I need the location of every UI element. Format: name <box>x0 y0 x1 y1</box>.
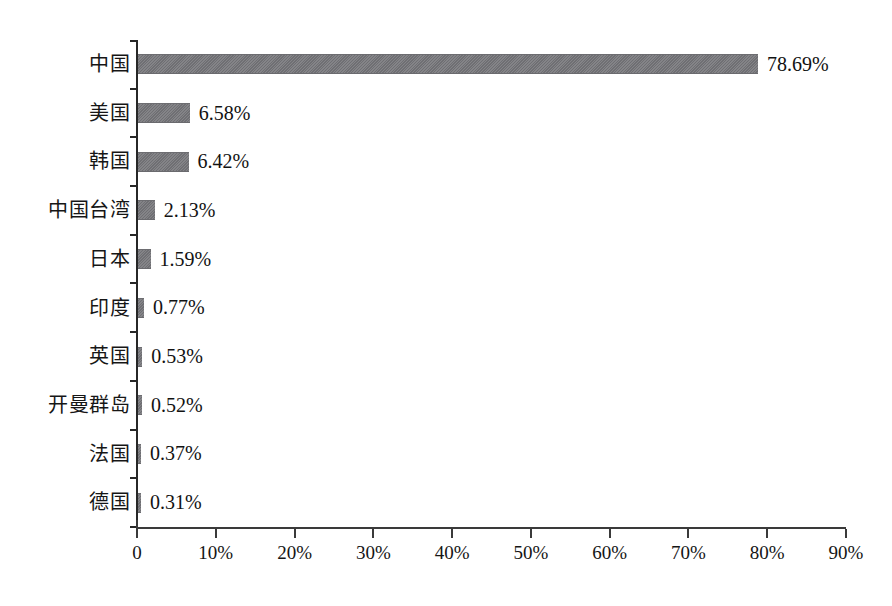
x-axis-tick <box>845 529 847 538</box>
x-axis-tick-label: 50% <box>513 542 548 564</box>
x-axis-tick <box>215 529 217 538</box>
x-axis-tick-label: 0 <box>132 542 142 564</box>
x-axis-tick-label: 90% <box>829 542 864 564</box>
x-axis-tick <box>766 529 768 538</box>
x-axis-tick-label: 70% <box>671 542 706 564</box>
x-axis-tick <box>609 529 611 538</box>
x-axis-tick-label: 10% <box>198 542 233 564</box>
x-axis-tick-label: 30% <box>356 542 391 564</box>
bar-chart: 中国78.69%美国6.58%韩国6.42%中国台湾2.13%日本1.59%印度… <box>0 0 892 606</box>
x-axis-tick-label: 60% <box>592 542 627 564</box>
x-axis-tick <box>372 529 374 538</box>
x-axis-ticks: 010%20%30%40%50%60%70%80%90% <box>0 0 892 606</box>
x-axis-tick-label: 20% <box>277 542 312 564</box>
x-axis-tick <box>136 520 138 538</box>
plot-area: 中国78.69%美国6.58%韩国6.42%中国台湾2.13%日本1.59%印度… <box>0 0 892 606</box>
x-axis-tick <box>294 529 296 538</box>
x-axis-tick <box>687 529 689 538</box>
x-axis-tick-label: 80% <box>750 542 785 564</box>
x-axis-tick <box>530 529 532 538</box>
x-axis-tick-label: 40% <box>435 542 470 564</box>
x-axis-tick <box>451 529 453 538</box>
